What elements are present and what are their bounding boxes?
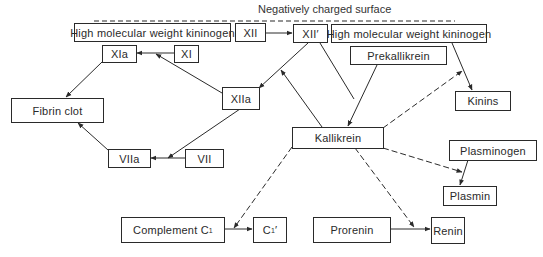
node-kinins: Kinins (455, 91, 511, 111)
edge-plasminogen-to-plasmin (460, 160, 468, 185)
node-label: Kinins (467, 95, 498, 107)
node-complement-c1: Complement C1 (121, 217, 225, 243)
node-label: Prorenin (330, 224, 373, 236)
node-label: VIIa (119, 153, 139, 165)
edge-kallikrein-to-complement-activation (234, 147, 292, 228)
node-label: Plasmin (450, 190, 491, 202)
node-label: VII (197, 153, 211, 165)
node-vii: VII (185, 149, 224, 168)
node-label: XII′ (302, 28, 318, 40)
node-renin: Renin (431, 217, 465, 244)
node-label: Kallikrein (315, 132, 362, 144)
node-label: C (263, 224, 271, 236)
edge-kallikrein-to-kinin-release (383, 71, 462, 128)
node-label: XIIa (231, 93, 251, 105)
node-label: XIa (111, 48, 128, 60)
edge-kallikrein-to-xii-activation (281, 70, 322, 127)
edge-kallikrein-to-renin-conversion (355, 148, 414, 227)
node-label: Fibrin clot (33, 105, 83, 117)
node-xi: XI (174, 45, 199, 63)
edge-viia-to-fibrin-clot (78, 123, 108, 150)
node-xia: XIa (102, 45, 137, 63)
node-label: Renin (433, 225, 463, 237)
edge-xia-to-fibrin-clot (66, 62, 102, 97)
node-plasminogen: Plasminogen (449, 140, 537, 161)
node-label: High molecular weight kininogen (327, 28, 492, 40)
node-label: Complement C (133, 224, 209, 236)
node-plasmin: Plasmin (443, 186, 497, 206)
edge-xii-prime-to-xiia (259, 43, 308, 88)
node-label-prime: ′ (275, 224, 277, 236)
node-label: Prekallikrein (367, 50, 430, 62)
node-label: XI (181, 48, 192, 60)
node-hmwk-left: High molecular weight kininogen (74, 23, 231, 42)
node-label: High molecular weight kininogen (70, 27, 235, 39)
node-fibrin-clot: Fibrin clot (11, 98, 104, 123)
node-label: Plasminogen (460, 145, 526, 157)
negatively-charged-surface-label: Negatively charged surface (258, 3, 391, 15)
node-xii-prime: XII′ (293, 24, 328, 43)
node-viia: VIIa (108, 149, 151, 168)
node-xiia: XIIa (222, 87, 260, 110)
node-hmwk-right: High molecular weight kininogen (331, 24, 487, 43)
node-c1-prime: C1′ (253, 217, 287, 243)
node-label-subscript: 1 (209, 227, 213, 234)
node-prorenin: Prorenin (313, 217, 391, 243)
node-prekallikrein: Prekallikrein (350, 46, 447, 65)
node-xii: XII (235, 23, 266, 42)
node-label: XII (243, 27, 257, 39)
edge-xii-prime-to-kallikrein (320, 43, 354, 99)
node-kallikrein: Kallikrein (292, 127, 384, 149)
edge-hmwk-to-kinins (452, 43, 472, 90)
